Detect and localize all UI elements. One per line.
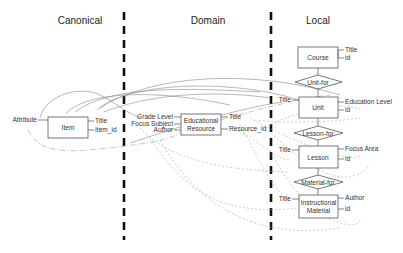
entity-item-label: Item <box>62 124 75 131</box>
entity-lesson-label: Lesson <box>307 154 329 161</box>
column-header-domain: Domain <box>191 15 225 26</box>
relationship-unit-for[interactable]: Unit-for <box>295 75 342 89</box>
entity-item[interactable]: Item <box>48 117 88 138</box>
column-header-local: Local <box>306 15 330 26</box>
attr-lesson-focus-area: Focus Area <box>345 145 379 152</box>
attr-er-grade-level: Grade Level <box>137 113 173 120</box>
entity-instructional-material[interactable]: Instructional Material <box>299 195 338 218</box>
attr-unit-title: Title <box>279 96 292 103</box>
relationship-material-for-label: Material-for <box>301 179 335 186</box>
entity-course[interactable]: Course <box>298 47 338 68</box>
entity-educational-resource-line1: Educational <box>184 117 219 124</box>
relationship-lesson-for-label: Lesson-for <box>302 130 334 137</box>
attr-course-title: Title <box>345 46 358 53</box>
entity-lesson[interactable]: Lesson <box>299 146 338 168</box>
entity-unit-label: Unit <box>312 104 324 111</box>
relationship-unit-for-label: Unit-for <box>307 79 329 86</box>
relationship-material-for[interactable]: Material-for <box>294 175 343 189</box>
entity-course-label: Course <box>307 54 329 61</box>
attr-item-attribute: Attribute <box>12 116 37 123</box>
diagram-canvas: Canonical Domain Local Item Attribute <box>0 0 403 253</box>
attr-lesson-id: id <box>345 155 350 162</box>
attr-lesson-title: Title <box>279 146 292 153</box>
attr-im-author: Author <box>345 194 365 201</box>
attr-unit-education-level: Education Level <box>345 98 392 105</box>
attr-course-id: id <box>345 54 350 61</box>
attr-er-author: Author <box>154 126 174 133</box>
attr-er-title: Title <box>229 113 242 120</box>
entity-educational-resource-line2: Resource <box>187 125 216 132</box>
attr-im-title: Title <box>279 195 292 202</box>
entity-instructional-material-line2: Material <box>307 207 331 214</box>
attr-im-id: id <box>345 205 350 212</box>
attr-item-title: Title <box>95 117 108 124</box>
attr-unit-id: id <box>345 106 350 113</box>
entity-educational-resource[interactable]: Educational Resource <box>181 114 221 135</box>
column-header-canonical: Canonical <box>58 15 102 26</box>
entity-unit[interactable]: Unit <box>299 97 338 118</box>
attr-item-id: Item_id <box>95 126 117 134</box>
relationship-lesson-for[interactable]: Lesson-for <box>294 126 343 140</box>
entity-instructional-material-line1: Instructional <box>301 199 337 206</box>
attr-er-resource-id: Resource_Id <box>229 125 267 133</box>
